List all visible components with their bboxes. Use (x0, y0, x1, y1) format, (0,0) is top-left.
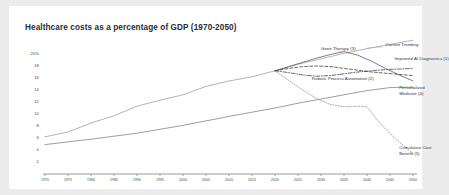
series-annotation-label: Current Trending (385, 42, 418, 48)
series-line (45, 87, 413, 145)
x-axis-tick-label: 2030 (311, 178, 331, 182)
x-axis-tick-label: 2000 (173, 178, 193, 182)
y-axis-tick-label: 16 (21, 75, 39, 80)
x-axis-tick-label: 1970 (35, 178, 55, 182)
x-axis-tick-label: 2010 (219, 178, 239, 182)
series-annotation-label: Gene Therapy (3) (321, 46, 356, 52)
x-axis-tick-label: 1995 (150, 178, 170, 182)
chart-card: Healthcare costs as a percentage of GDP … (9, 6, 422, 189)
chart-svg (9, 6, 422, 189)
x-axis-tick-label: 1990 (127, 178, 147, 182)
x-axis-tick-label: 2015 (242, 178, 262, 182)
x-axis-tick-label: 2040 (357, 178, 377, 182)
y-axis-tick-label: 6 (21, 135, 39, 140)
y-axis-tick-label: 10 (21, 111, 39, 116)
y-axis-tick-label: 4 (21, 147, 39, 152)
x-axis-tick-label: 2045 (380, 178, 400, 182)
x-axis-tick-label: 2035 (334, 178, 354, 182)
y-axis-tick-label: 20% (21, 51, 39, 56)
y-axis-tick-label: 12 (21, 99, 39, 104)
y-axis-tick-label: 14 (21, 87, 39, 92)
x-axis-tick-label: 2050 (403, 178, 423, 182)
series-annotation-label: PersonalizedMedicine (4) (399, 85, 424, 97)
y-axis-tick-label: 18 (21, 63, 39, 68)
series-annotation-label: Robotic Process Automation (2) (312, 76, 374, 82)
x-axis-tick-label: 2025 (288, 178, 308, 182)
series-line (275, 71, 413, 154)
chart-plot-area: 20%18161412108642 1970197519801985199019… (9, 6, 422, 189)
x-axis-tick-label: 1985 (104, 178, 124, 182)
series-line (45, 40, 413, 137)
x-axis-tick-label: 1975 (58, 178, 78, 182)
y-axis-tick-label: 8 (21, 123, 39, 128)
y-axis-tick-label: 2 (21, 159, 39, 164)
series-annotation-label: Improved AI Diagnostics (1) (395, 56, 449, 62)
x-axis-tick-label: 2005 (196, 178, 216, 182)
x-axis-tick-label: 2020 (265, 178, 285, 182)
x-axis-tick-label: 1980 (81, 178, 101, 182)
series-annotation-label: Cumulative CostBenefit (5) (399, 145, 431, 157)
